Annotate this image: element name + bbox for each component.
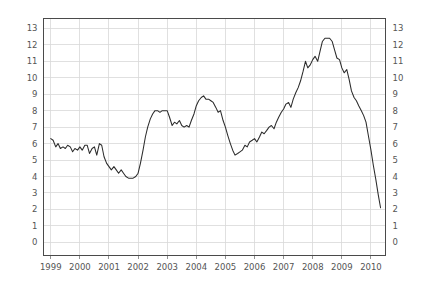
x-axis-tick-label: 2005	[215, 262, 237, 272]
x-axis-tick-label: 2009	[331, 262, 353, 272]
y-axis-tick-label-right: 8	[393, 106, 398, 116]
x-axis-tick-label: 2007	[273, 262, 295, 272]
y-axis-tick-label-right: 2	[393, 204, 398, 214]
y-axis-tick-label-left: 4	[32, 172, 37, 182]
y-axis-tick-label-right: 13	[393, 23, 404, 33]
y-axis-tick-label-right: 11	[393, 56, 404, 66]
y-axis-tick-label-right: 5	[393, 155, 398, 165]
y-axis-tick-label-right: 9	[393, 89, 398, 99]
x-axis-tick-label: 1999	[40, 262, 62, 272]
x-axis-tick-label: 2008	[302, 262, 324, 272]
y-axis-tick-label-right: 4	[393, 172, 398, 182]
y-axis-tick-label-left: 10	[27, 73, 38, 83]
y-axis-tick-label-left: 7	[32, 122, 37, 132]
y-axis-tick-label-right: 0	[393, 237, 398, 247]
y-axis-tick-label-left: 6	[32, 139, 37, 149]
y-axis-tick-label-right: 7	[393, 122, 398, 132]
y-axis-tick-label-left: 1	[32, 221, 37, 231]
x-axis-tick-label: 2010	[360, 262, 382, 272]
y-axis-tick-label-left: 13	[27, 23, 38, 33]
x-axis-tick-label: 2000	[69, 262, 91, 272]
x-axis-tick-label: 2001	[98, 262, 120, 272]
y-axis-tick-label-left: 5	[32, 155, 37, 165]
x-axis-tick-label: 2002	[127, 262, 149, 272]
x-axis-tick-label: 2004	[185, 262, 207, 272]
y-axis-tick-label-left: 2	[32, 204, 37, 214]
chart-container: 012345678910111213 012345678910111213 19…	[0, 0, 424, 288]
y-axis-tick-label-left: 8	[32, 106, 37, 116]
y-axis-tick-label-left: 11	[27, 56, 38, 66]
y-axis-tick-label-left: 9	[32, 89, 37, 99]
y-axis-tick-label-right: 3	[393, 188, 398, 198]
y-axis-tick-label-left: 12	[27, 40, 38, 50]
y-axis-tick-label-right: 10	[393, 73, 404, 83]
y-axis-tick-label-left: 0	[32, 237, 37, 247]
x-axis-tick-label: 2006	[244, 262, 266, 272]
y-axis-tick-label-right: 12	[393, 40, 404, 50]
chart-background	[0, 0, 424, 288]
y-axis-tick-label-left: 3	[32, 188, 37, 198]
x-axis-tick-label: 2003	[156, 262, 178, 272]
y-axis-tick-label-right: 6	[393, 139, 398, 149]
y-axis-tick-label-right: 1	[393, 221, 398, 231]
line-chart: 012345678910111213 012345678910111213 19…	[0, 0, 424, 288]
